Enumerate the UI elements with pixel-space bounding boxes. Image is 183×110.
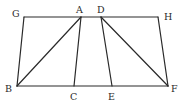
segment-df — [101, 17, 168, 86]
label-g: G — [12, 8, 20, 19]
segment-gb — [17, 17, 24, 86]
label-b: B — [5, 83, 12, 94]
geometry-diagram: G A D H B C E F — [0, 0, 183, 110]
segment-ab — [17, 17, 81, 86]
label-c: C — [70, 91, 77, 102]
label-f: F — [171, 83, 178, 94]
label-a: A — [75, 4, 83, 15]
label-e: E — [108, 91, 115, 102]
segments — [17, 17, 168, 86]
point-labels: G A D H B C E F — [5, 4, 178, 102]
label-h: H — [164, 11, 172, 22]
segment-ac — [74, 17, 81, 86]
segment-hf — [158, 17, 168, 86]
label-d: D — [97, 4, 105, 15]
